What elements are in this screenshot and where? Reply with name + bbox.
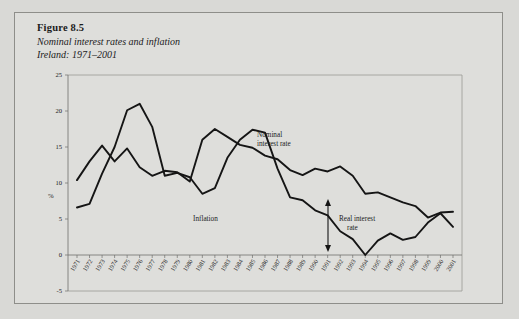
x-tick-label: 1973 bbox=[94, 258, 107, 272]
plot-frame bbox=[68, 75, 462, 291]
y-tick-label: 15 bbox=[55, 143, 62, 150]
x-tick-label: 1989 bbox=[294, 258, 307, 272]
annotation-nominal-line2: interest rate bbox=[257, 140, 291, 148]
x-tick-label: 1975 bbox=[119, 258, 132, 272]
x-tick-label: 1999 bbox=[419, 258, 432, 272]
y-tick-label: -5 bbox=[57, 287, 63, 294]
x-axis-tick-labels: 1971197219731974197519761977197819791980… bbox=[68, 257, 457, 272]
annotation-real-line1: Real interest bbox=[339, 215, 375, 223]
x-tick-label: 1971 bbox=[68, 258, 81, 272]
x-tick-label: 1991 bbox=[319, 258, 332, 272]
x-tick-label: 1990 bbox=[307, 258, 320, 272]
annotation-nominal-line1: Nominal bbox=[257, 131, 282, 139]
x-tick-label: 1987 bbox=[269, 258, 282, 272]
x-tick-label: 1993 bbox=[344, 258, 357, 272]
x-tick-label: 1980 bbox=[181, 258, 194, 272]
y-tick-label: 0 bbox=[59, 251, 63, 258]
x-tick-label: 1986 bbox=[256, 258, 269, 272]
x-tick-label: 1992 bbox=[332, 258, 345, 272]
series-line-inflation bbox=[77, 104, 453, 255]
double-headed-arrow-icon bbox=[325, 199, 331, 252]
y-tick-label: 20 bbox=[55, 107, 62, 114]
x-tick-label: 1985 bbox=[244, 258, 257, 272]
x-tick-label: 1988 bbox=[282, 258, 295, 272]
y-axis-tick-labels: -50510152025 bbox=[55, 71, 62, 294]
line-chart: -50510152025 197119721973197419751976197… bbox=[15, 13, 504, 305]
annotation-nominal-interest-rate: Nominal interest rate bbox=[257, 131, 291, 148]
annotation-real-interest-rate: Real interest rate bbox=[339, 215, 375, 232]
x-tick-label: 1984 bbox=[231, 257, 244, 272]
x-tick-label: 1982 bbox=[206, 258, 219, 272]
y-axis-ticks bbox=[65, 75, 68, 291]
x-tick-label: 1979 bbox=[169, 258, 182, 272]
x-tick-label: 1976 bbox=[131, 258, 144, 272]
chart-area: -50510152025 197119721973197419751976197… bbox=[15, 13, 504, 305]
annotation-real-line2: rate bbox=[347, 224, 358, 232]
y-tick-label: 25 bbox=[55, 71, 62, 78]
x-axis-ticks bbox=[77, 255, 453, 258]
x-tick-label: 1998 bbox=[407, 258, 420, 272]
y-tick-label: 5 bbox=[59, 215, 63, 222]
x-tick-label: 1974 bbox=[106, 257, 119, 272]
x-tick-label: 1981 bbox=[194, 258, 207, 272]
x-tick-label: 1995 bbox=[369, 258, 382, 272]
x-tick-label: 2000 bbox=[432, 258, 445, 272]
x-tick-label: 1972 bbox=[81, 258, 94, 272]
x-tick-label: 2001 bbox=[444, 258, 457, 272]
figure-card: Figure 8.5 Nominal interest rates and in… bbox=[14, 12, 503, 304]
y-tick-label: 10 bbox=[55, 179, 62, 186]
x-tick-label: 1978 bbox=[156, 258, 169, 272]
x-tick-label: 1994 bbox=[357, 257, 370, 272]
x-tick-label: 1997 bbox=[394, 258, 407, 272]
axes bbox=[68, 75, 462, 291]
x-tick-label: 1983 bbox=[219, 258, 232, 272]
x-tick-label: 1996 bbox=[382, 258, 395, 272]
y-axis-title: % bbox=[48, 192, 54, 199]
x-tick-label: 1977 bbox=[144, 258, 157, 272]
annotation-inflation: Inflation bbox=[193, 215, 218, 223]
